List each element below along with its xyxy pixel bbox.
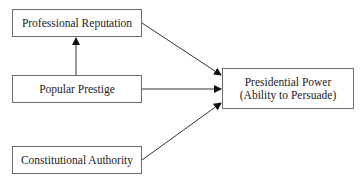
node-popular-prestige: Popular Prestige [12, 75, 142, 103]
node-professional-reputation: Professional Reputation [12, 9, 142, 37]
node-label: Professional Reputation [22, 17, 132, 30]
node-label: Constitutional Authority [21, 154, 133, 167]
node-label-line1: Presidential Power [245, 76, 332, 89]
node-label: Popular Prestige [39, 83, 115, 96]
edge-constitutional-to-presidential [142, 103, 221, 160]
node-label-line2: (Ability to Persuade) [240, 89, 336, 102]
node-presidential-power: Presidential Power (Ability to Persuade) [222, 68, 354, 109]
edge-professional-to-presidential [142, 23, 221, 75]
node-constitutional-authority: Constitutional Authority [12, 146, 142, 174]
